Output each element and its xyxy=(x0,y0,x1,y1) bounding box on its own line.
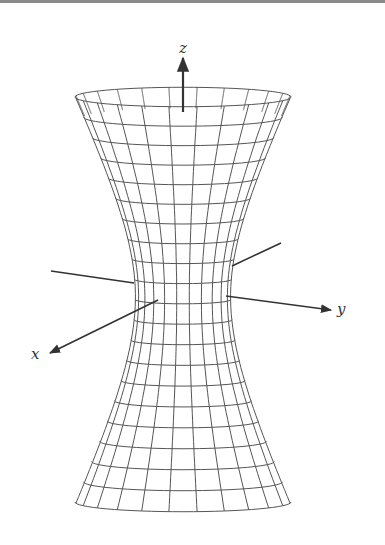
mesh-ring xyxy=(107,421,259,428)
y-axis-negative-line xyxy=(51,271,134,283)
mesh-meridian xyxy=(196,87,197,108)
mesh-meridian xyxy=(169,107,177,512)
mesh-ring xyxy=(122,219,244,224)
figure-canvas: z y x xyxy=(0,0,385,545)
mesh-meridian xyxy=(169,87,170,108)
mesh-meridian xyxy=(262,91,269,112)
mesh-ring xyxy=(131,340,236,345)
mesh-meridian xyxy=(281,96,290,116)
x-axis-arrow xyxy=(50,300,158,353)
mesh-meridian xyxy=(97,91,104,112)
mesh-ring xyxy=(134,279,231,283)
mesh-ring xyxy=(75,502,291,512)
y-axis-label: y xyxy=(337,302,345,317)
hyperboloid-wireframe-mesh xyxy=(75,87,291,511)
x-axis-negative-line xyxy=(232,243,281,266)
mesh-ring xyxy=(114,401,251,407)
mesh-ring xyxy=(100,441,267,449)
mesh-meridian xyxy=(189,107,197,512)
mesh-ring xyxy=(92,462,275,470)
y-axis-arrow xyxy=(226,296,331,310)
mesh-ring xyxy=(115,198,250,204)
mesh-ring xyxy=(134,320,233,324)
hyperboloid-diagram xyxy=(0,0,385,545)
mesh-ring xyxy=(92,138,274,146)
mesh-ring xyxy=(126,360,239,365)
mesh-ring xyxy=(128,239,239,244)
mesh-ring xyxy=(108,178,258,185)
mesh-ring xyxy=(84,117,283,126)
mesh-ring xyxy=(83,482,282,491)
mesh-ring xyxy=(100,158,265,165)
x-axis-label: x xyxy=(31,347,39,362)
z-axis-label: z xyxy=(179,41,187,56)
mesh-ring xyxy=(121,381,246,387)
mesh-ring xyxy=(132,259,235,264)
mesh-meridian xyxy=(76,96,85,116)
mesh-ring xyxy=(135,300,231,304)
